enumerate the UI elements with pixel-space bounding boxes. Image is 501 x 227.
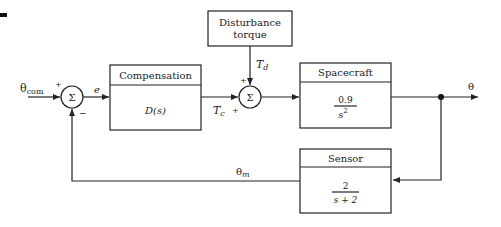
sum1-plus-sign: + (55, 80, 62, 89)
control-torque-label: Tc (213, 104, 225, 118)
disturbance-title-line2: torque (233, 29, 267, 40)
disturbance-signal-label: Td (256, 58, 268, 72)
sensor-denominator: s + 2 (334, 195, 358, 205)
sigma-symbol: Σ (246, 92, 253, 103)
corner-mark (0, 13, 7, 17)
measured-signal-label: θm (236, 166, 250, 179)
spacecraft-block: Spacecraft 0.9 s2 (300, 63, 391, 128)
disturbance-torque-block: Disturbance torque (208, 11, 292, 46)
sensor-title: Sensor (328, 153, 363, 164)
sum2-plus-sign-top: + (240, 76, 247, 85)
error-label: e (94, 84, 100, 95)
feedback-to-sensor-arrow (393, 97, 441, 180)
sum2-plus-sign-left: + (232, 106, 239, 115)
spacecraft-numerator: 0.9 (338, 95, 353, 105)
compensation-block: Compensation D(s) (110, 65, 201, 130)
summing-junction-1: Σ (61, 86, 83, 108)
output-label: θ (468, 81, 474, 92)
summing-junction-2: Σ (239, 86, 261, 108)
sum1-minus-sign: − (79, 108, 87, 118)
disturbance-title-line1: Disturbance (219, 17, 281, 28)
sensor-numerator: 2 (343, 181, 349, 191)
compensation-transfer-function: D(s) (144, 105, 166, 116)
sensor-block: Sensor 2 s + 2 (300, 149, 391, 213)
compensation-title: Compensation (119, 70, 192, 81)
sigma-symbol: Σ (68, 92, 75, 103)
block-diagram: θcom + Σ − e Compensation D(s) Tc + Dist… (0, 0, 501, 227)
spacecraft-title: Spacecraft (318, 67, 373, 78)
input-label: θcom (20, 82, 44, 96)
